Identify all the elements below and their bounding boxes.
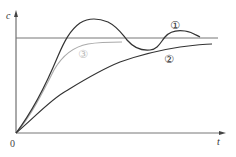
- x-axis-arrow-icon: [219, 131, 226, 135]
- y-axis-label: c: [6, 10, 11, 21]
- curve-1-label: ①: [170, 19, 180, 32]
- curve-3-label: ③: [78, 48, 88, 61]
- curve-2: [16, 44, 212, 133]
- curve-2-label: ②: [164, 53, 174, 66]
- origin-label: 0: [10, 138, 15, 149]
- y-axis-arrow-icon: [14, 10, 18, 17]
- step-response-diagram: c t 0 ① ② ③: [0, 0, 236, 157]
- x-axis-label: t: [217, 136, 220, 147]
- curve-1: [16, 19, 200, 133]
